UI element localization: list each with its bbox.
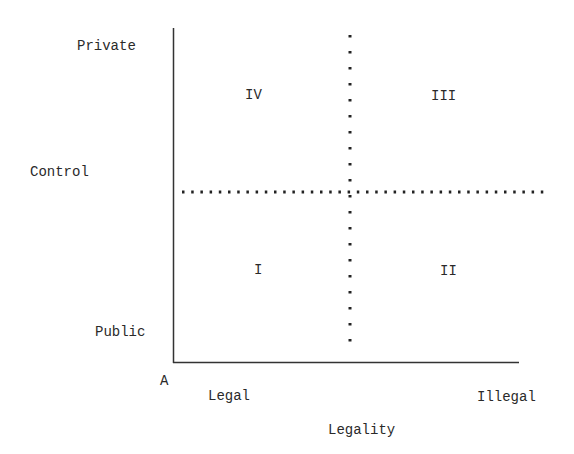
x-right-label: Illegal [477,389,536,405]
y-bottom-label: Public [95,324,145,340]
y-top-label: Private [77,38,136,54]
x-left-label: Legal [208,388,250,404]
quadrant-ii-label: II [440,263,457,279]
quadrant-i-label: I [254,262,262,278]
quadrant-diagram [0,0,574,454]
quadrant-iii-label: III [431,88,456,104]
origin-label: A [160,373,168,389]
quadrant-iv-label: IV [245,87,262,103]
x-axis-label: Legality [328,422,395,438]
y-axis-label: Control [30,164,89,180]
